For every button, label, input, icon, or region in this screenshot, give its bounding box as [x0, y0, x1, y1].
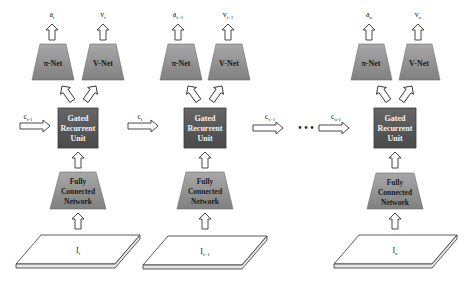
policy-net-label: π-Net: [171, 59, 190, 68]
fcn-label-line: Network: [381, 198, 410, 207]
arrow-up-icon: [412, 24, 424, 40]
gru-label-line: Recurrent: [188, 124, 223, 133]
fcn-label-line: Fully: [197, 177, 214, 186]
arrow-up-icon: [46, 24, 58, 40]
gru-label-line: Gated: [68, 114, 89, 123]
column-t: at vt π-Net V-Net Gated Recurrent Unit c…: [16, 10, 140, 268]
arrow-up-icon: [172, 24, 184, 40]
arrow-up-icon: [389, 213, 401, 229]
output-action-label: at: [50, 10, 56, 20]
value-net-block: V-Net: [208, 44, 250, 80]
value-net-label: V-Net: [219, 59, 239, 68]
arrow-right-icon: [253, 122, 283, 134]
gru-block: Gated Recurrent Unit: [58, 108, 98, 148]
input-frame-plate: It+1: [143, 236, 267, 269]
policy-net-block: π-Net: [351, 44, 392, 80]
arrow-up-icon: [389, 152, 401, 168]
policy-net-block: π-Net: [32, 44, 74, 80]
fcn-label-line: Connected: [188, 187, 223, 196]
architecture-diagram: at vt π-Net V-Net Gated Recurrent Unit c…: [0, 0, 472, 282]
value-net-label: V-Net: [93, 59, 113, 68]
recurrent-gap: ct+1 • • • cn-1: [253, 112, 349, 134]
output-value-label: vt+1: [223, 10, 234, 20]
arrow-diagonal-icon: [183, 83, 203, 105]
output-value-label: vn: [415, 10, 422, 20]
gru-label-line: Unit: [387, 134, 402, 143]
input-frame-plate: It: [16, 235, 140, 268]
diagram-canvas: at vt π-Net V-Net Gated Recurrent Unit c…: [0, 0, 472, 282]
state-out-label: ct+1: [265, 112, 276, 122]
gru-label-line: Gated: [195, 114, 216, 123]
fcn-label-line: Fully: [387, 178, 404, 187]
arrow-diagonal-icon: [57, 83, 77, 105]
arrow-up-icon: [363, 24, 375, 40]
arrow-up-icon: [222, 24, 234, 40]
value-net-block: V-Net: [399, 44, 440, 80]
gru-label-line: Unit: [197, 134, 212, 143]
gru-block: Gated Recurrent Unit: [374, 108, 416, 148]
gru-label-line: Recurrent: [378, 124, 413, 133]
policy-net-block: π-Net: [160, 44, 202, 80]
arrow-up-icon: [72, 152, 84, 168]
state-in-label: ct-1: [23, 112, 33, 122]
fully-connected-block: Fully Connected Network: [177, 172, 233, 209]
gru-label-line: Unit: [70, 134, 85, 143]
arrow-right-icon: [20, 120, 50, 132]
fcn-label-line: Network: [191, 197, 220, 206]
arrow-right-icon: [128, 120, 158, 132]
fcn-label-line: Fully: [70, 177, 87, 186]
arrow-up-icon: [72, 213, 84, 229]
arrow-diagonal-icon: [397, 83, 417, 105]
value-net-block: V-Net: [82, 44, 124, 80]
state-in-label: cn-1: [331, 112, 342, 122]
fully-connected-block: Fully Connected Network: [50, 172, 106, 209]
arrow-up-icon: [97, 24, 109, 40]
state-in-label: ct: [138, 112, 144, 122]
fcn-label-line: Connected: [378, 188, 413, 197]
value-net-label: V-Net: [409, 59, 429, 68]
fully-connected-block: Fully Connected Network: [367, 173, 423, 209]
fcn-label-line: Network: [64, 197, 93, 206]
arrow-right-icon: [319, 122, 349, 134]
output-action-label: at+1: [173, 10, 184, 20]
fcn-label-line: Connected: [61, 187, 96, 196]
column-n: an vn π-Net V-Net Gated Recurrent Unit F…: [334, 10, 457, 268]
arrow-diagonal-icon: [81, 83, 101, 105]
policy-net-label: π-Net: [43, 59, 62, 68]
gru-label-line: Recurrent: [61, 124, 96, 133]
input-frame-plate: In: [334, 235, 457, 268]
policy-net-label: π-Net: [361, 59, 380, 68]
arrow-diagonal-icon: [207, 83, 227, 105]
gru-block: Gated Recurrent Unit: [184, 108, 226, 148]
column-t-plus-1: at+1 vt+1 π-Net V-Net Gated Recurrent Un…: [128, 10, 267, 269]
arrow-diagonal-icon: [373, 83, 393, 105]
arrow-up-icon: [199, 213, 211, 229]
output-action-label: an: [366, 10, 373, 20]
arrow-up-icon: [199, 152, 211, 168]
output-value-label: vt: [100, 10, 106, 20]
ellipsis: • • •: [298, 122, 314, 133]
gru-label-line: Gated: [385, 114, 406, 123]
